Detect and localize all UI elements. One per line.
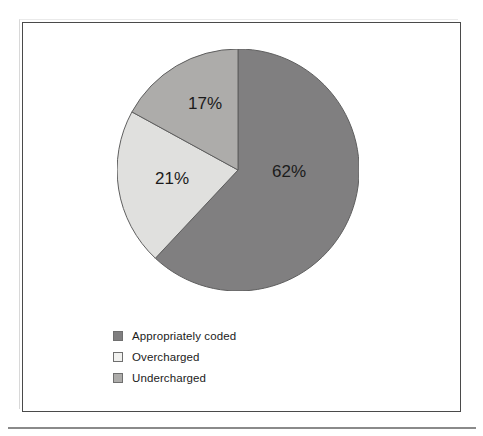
pie-label-undercharged: 17% [188,94,222,113]
chart-frame-border: 62% 21% 17% Appropriately coded Overchar… [22,22,461,412]
legend-swatch-icon-appropriately-coded [113,331,123,341]
legend-swatch-icon-undercharged [113,373,123,383]
legend-item-overcharged: Overcharged [113,346,363,367]
pie-chart: 62% 21% 17% [117,49,359,291]
chart-legend: Appropriately coded Overcharged Undercha… [113,325,363,388]
bottom-horizontal-rule [8,427,476,429]
legend-item-undercharged: Undercharged [113,367,363,388]
legend-swatch-icon-overcharged [113,352,123,362]
figure-root: 62% 21% 17% Appropriately coded Overchar… [0,0,483,436]
legend-item-appropriately-coded: Appropriately coded [113,325,363,346]
legend-label-overcharged: Overcharged [132,351,200,363]
legend-label-appropriately-coded: Appropriately coded [132,330,236,342]
pie-label-appropriately-coded: 62% [272,162,306,181]
pie-chart-svg: 62% 21% 17% [117,49,359,291]
legend-label-undercharged: Undercharged [132,372,206,384]
pie-label-overcharged: 21% [155,169,189,188]
